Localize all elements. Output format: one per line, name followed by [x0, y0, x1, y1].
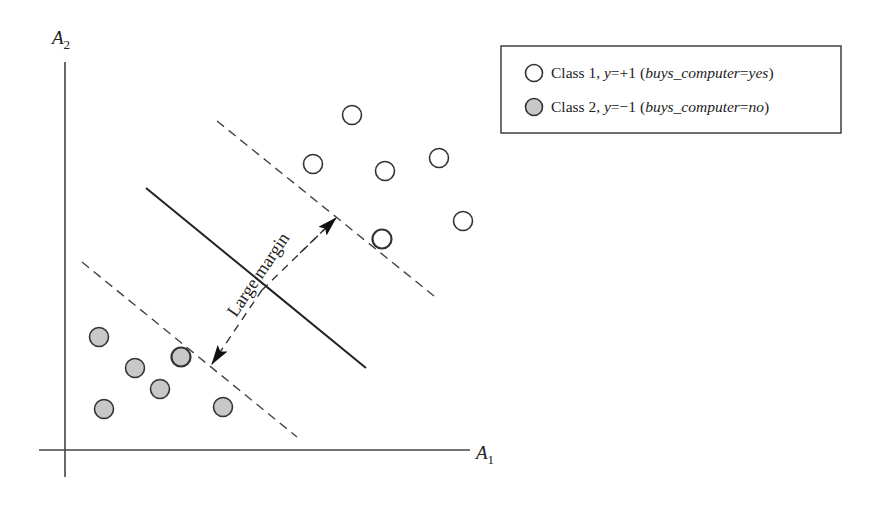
- legend-item-class2: Class 2, y=−1 (buys_computer=no): [526, 98, 770, 116]
- class1-support-vector: [373, 230, 392, 249]
- class2-point: [95, 400, 114, 419]
- class1-point: [454, 212, 473, 231]
- legend: Class 1, y=+1 (buys_computer=yes) Class …: [501, 46, 841, 133]
- class2-point: [90, 328, 109, 347]
- class1-points: [304, 106, 473, 249]
- open-circle-icon: [526, 65, 543, 82]
- class2-point: [151, 380, 170, 399]
- svm-margin-diagram: A1 A2 Large margin: [0, 0, 885, 507]
- margin-label: Large margin: [223, 229, 294, 320]
- legend-box: [501, 46, 841, 133]
- class1-point: [304, 155, 323, 174]
- class2-points: [90, 328, 233, 419]
- class2-point: [214, 398, 233, 417]
- margin-annotation: Large margin: [212, 218, 336, 364]
- class2-point: [126, 359, 145, 378]
- legend-item-class1: Class 1, y=+1 (buys_computer=yes): [526, 64, 774, 82]
- class2-support-vector: [172, 348, 191, 367]
- x-axis-label: A1: [474, 442, 494, 467]
- margin-arrow-up: [300, 218, 336, 253]
- class1-point: [430, 149, 449, 168]
- legend-label-class2: Class 2, y=−1 (buys_computer=no): [551, 98, 769, 116]
- class1-point: [343, 106, 362, 125]
- class1-point: [376, 162, 395, 181]
- legend-label-class1: Class 1, y=+1 (buys_computer=yes): [551, 64, 774, 82]
- y-axis-label: A2: [50, 27, 70, 52]
- filled-circle-icon: [526, 99, 543, 116]
